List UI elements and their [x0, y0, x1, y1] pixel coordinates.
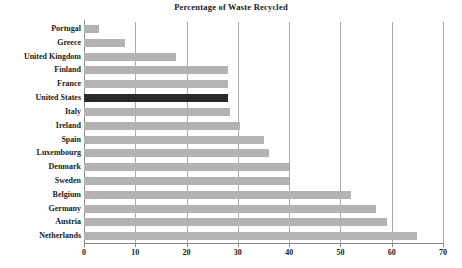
bar-row: Finland [84, 63, 443, 77]
category-label: Portugal [51, 23, 81, 34]
tick-mark-30 [238, 243, 239, 247]
bar-row: Ireland [84, 119, 443, 133]
bar [84, 177, 289, 185]
bar [84, 149, 269, 157]
category-label: Austria [55, 216, 81, 227]
bar-row: Greece [84, 36, 443, 50]
tick-mark-70 [443, 243, 444, 247]
category-label: France [57, 78, 81, 89]
bar-row: United States [84, 91, 443, 105]
category-label: Ireland [56, 120, 81, 131]
x-tick-label: 10 [131, 248, 139, 257]
bar [84, 108, 230, 116]
tick-mark-50 [340, 243, 341, 247]
category-label: Italy [65, 106, 81, 117]
category-label: United Kingdom [24, 51, 81, 62]
category-label: Finland [54, 64, 81, 75]
gridline-70 [443, 22, 444, 243]
bar [84, 66, 228, 74]
bar-chart: Percentage of Waste Recycled PortugalGre… [0, 0, 462, 268]
bar-row: Italy [84, 105, 443, 119]
category-label: Netherlands [39, 230, 81, 241]
x-tick-label: 0 [82, 248, 86, 257]
category-label: Belgium [53, 189, 81, 200]
bar-row: Luxembourg [84, 146, 443, 160]
bar [84, 191, 351, 199]
tick-mark-40 [289, 243, 290, 247]
x-tick-label: 50 [336, 248, 344, 257]
bar-row: Denmark [84, 160, 443, 174]
tick-mark-0 [84, 243, 85, 247]
x-tick-label: 30 [234, 248, 242, 257]
bar [84, 205, 376, 213]
x-tick-label: 20 [183, 248, 191, 257]
bar-row: Austria [84, 215, 443, 229]
category-label: Germany [49, 203, 81, 214]
plot-area: PortugalGreeceUnited KingdomFinlandFranc… [84, 22, 443, 243]
category-label: Denmark [49, 161, 81, 172]
bar-row: Belgium [84, 188, 443, 202]
category-label: Spain [61, 134, 81, 145]
bar [84, 53, 176, 61]
bar-row: United Kingdom [84, 50, 443, 64]
bar [84, 25, 99, 33]
category-label: Sweden [55, 175, 81, 186]
bar [84, 218, 387, 226]
bar [84, 39, 125, 47]
bar-row: Spain [84, 133, 443, 147]
x-tick-label: 60 [388, 248, 396, 257]
tick-mark-60 [392, 243, 393, 247]
bar-row: Sweden [84, 174, 443, 188]
bar [84, 80, 228, 88]
tick-mark-20 [187, 243, 188, 247]
chart-title: Percentage of Waste Recycled [0, 2, 462, 12]
category-label: Greece [57, 37, 81, 48]
x-tick-label: 40 [285, 248, 293, 257]
bar-row: Portugal [84, 22, 443, 36]
tick-mark-10 [135, 243, 136, 247]
bar [84, 136, 264, 144]
bar-row: Germany [84, 202, 443, 216]
category-label: United States [35, 92, 81, 103]
bar [84, 163, 289, 171]
bar-row: France [84, 77, 443, 91]
category-label: Luxembourg [37, 147, 81, 158]
bar [84, 122, 240, 130]
bar-row: Netherlands [84, 229, 443, 243]
bar [84, 94, 228, 102]
x-tick-label: 70 [439, 248, 447, 257]
bar [84, 232, 417, 240]
